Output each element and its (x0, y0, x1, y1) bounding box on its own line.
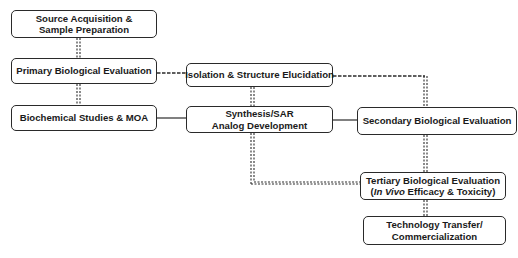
node-label-line-2: (In Vivo Efficacy & Toxicity) (371, 186, 496, 198)
node-label-line: Tertiary Biological Evaluation (366, 175, 500, 187)
node-synthesis-sar: Synthesis/SAR Analog Development (186, 106, 333, 133)
in-vivo-italic: In Vivo (374, 186, 405, 197)
node-secondary-biological-evaluation: Secondary Biological Evaluation (357, 107, 517, 135)
edge-secondary-tertiary (424, 135, 427, 172)
node-label-line: Synthesis/SAR (225, 108, 293, 120)
node-technology-transfer: Technology Transfer/ Commercialization (363, 216, 506, 245)
node-label-line: Primary Biological Evaluation (16, 65, 151, 77)
edge-tertiary-techtransfer (424, 200, 427, 216)
node-biochemical-studies-moa: Biochemical Studies & MOA (11, 105, 157, 131)
node-label-line: Commercialization (392, 231, 477, 243)
node-label-line: Sample Preparation (39, 24, 129, 36)
node-isolation-structure-elucidation: Isolation & Structure Elucidation (186, 63, 333, 87)
edge-isolation-synthesis (251, 87, 254, 106)
node-tertiary-biological-evaluation: Tertiary Biological Evaluation (In Vivo … (360, 172, 506, 200)
node-label-line: Secondary Biological Evaluation (363, 115, 512, 127)
node-source-acquisition: Source Acquisition & Sample Preparation (11, 10, 157, 38)
edge-synthesis-tertiary (251, 133, 360, 184)
node-label-line: Analog Development (212, 120, 307, 132)
node-label-line: Source Acquisition & (36, 13, 133, 25)
node-label-line: Technology Transfer/ (386, 219, 482, 231)
node-primary-biological-evaluation: Primary Biological Evaluation (11, 58, 157, 84)
edge-primary-biochem (77, 84, 80, 105)
edge-source-primary (77, 38, 80, 58)
edge-isolation-secondary (333, 76, 427, 107)
line2-suffix: Efficacy & Toxicity) (405, 186, 495, 197)
node-label-line: Isolation & Structure Elucidation (185, 69, 334, 81)
node-label-line: Biochemical Studies & MOA (20, 112, 148, 124)
